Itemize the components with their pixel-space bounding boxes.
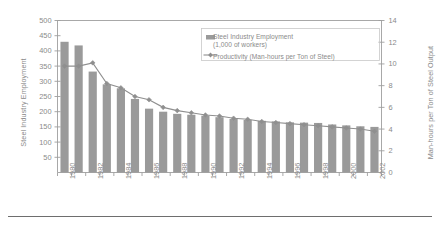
bar-1982 (89, 72, 97, 173)
productivity-marker-1987 (161, 105, 166, 110)
x-axis-tick-2000: 2000 (349, 162, 358, 178)
y-axis-right-tick-2: 2 (389, 146, 409, 155)
legend-item-employment-label-line1: Steel Industry Employment (213, 33, 293, 40)
x-axis-tick-1986: 1986 (152, 162, 161, 178)
y-axis-right-tick-4: 4 (389, 125, 409, 134)
y-axis-left-tick-300: 300 (26, 77, 52, 86)
y-axis-left-tick-500: 500 (26, 16, 52, 25)
y-axis-right-tick-0: 0 (389, 168, 409, 177)
x-axis-tick-1990: 1990 (209, 162, 218, 178)
y-axis-left-tick-100: 100 (26, 138, 52, 147)
y-axis-left-tick-50: 50 (26, 153, 52, 162)
y-axis-left-tick-400: 400 (26, 46, 52, 55)
productivity-marker-1989 (189, 110, 194, 115)
y-axis-left-tick-150: 150 (26, 122, 52, 131)
bar-1985 (131, 99, 139, 173)
x-axis-tick-1982: 1982 (96, 162, 105, 178)
chart-figure: Steel Industry Employment Man-hours per … (0, 0, 440, 227)
bar-1980 (60, 42, 68, 173)
y-axis-right-tick-6: 6 (389, 103, 409, 112)
x-axis-tick-1996: 1996 (293, 162, 302, 178)
x-axis-tick-1984: 1984 (124, 162, 133, 178)
x-axis-tick-1992: 1992 (237, 162, 246, 178)
x-axis-tick-1988: 1988 (180, 162, 189, 178)
bar-1984 (117, 88, 125, 172)
y-axis-left-tick-450: 450 (26, 31, 52, 40)
y-axis-right-tick-12: 12 (389, 38, 409, 47)
footer-divider (8, 216, 432, 217)
x-axis-tick-1994: 1994 (265, 162, 274, 178)
y-axis-left-tick-350: 350 (26, 62, 52, 71)
productivity-marker-1988 (175, 108, 180, 113)
y-axis-right-tick-8: 8 (389, 81, 409, 90)
bar-1983 (103, 84, 111, 172)
x-axis-tick-1980: 1980 (68, 162, 77, 178)
x-axis-tick-1998: 1998 (321, 162, 330, 178)
y-axis-left-tick-250: 250 (26, 92, 52, 101)
x-axis-tick-2002: 2002 (378, 162, 387, 178)
legend-item-employment-label-line2: (1,000 of workers) (213, 41, 267, 48)
y-axis-right-tick-10: 10 (389, 59, 409, 68)
legend-item-productivity-label: Productivity (Man-hours per Ton of Steel… (213, 53, 335, 60)
productivity-marker-1986 (147, 97, 152, 102)
y-axis-right-tick-14: 14 (389, 16, 409, 25)
y-axis-left-tick-200: 200 (26, 107, 52, 116)
